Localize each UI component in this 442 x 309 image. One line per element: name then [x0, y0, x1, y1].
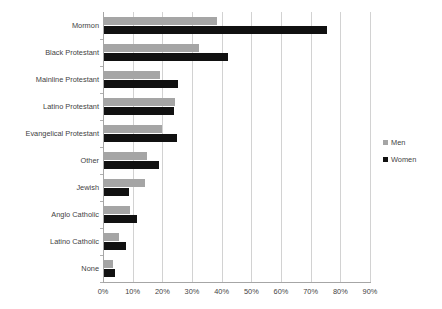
x-tick-label: 80% [325, 287, 355, 296]
y-category-label: Anglo Catholic [51, 210, 99, 219]
y-category-label: Latino Protestant [43, 102, 99, 111]
y-category-label: Mormon [72, 21, 99, 30]
legend-entry[interactable]: Men [383, 136, 416, 149]
y-category-label: Mainline Protestant [36, 75, 99, 84]
legend-label: Men [391, 138, 405, 147]
x-tick-label: 30% [177, 287, 207, 296]
y-category-label: Other [81, 156, 99, 165]
x-tick-label: 60% [266, 287, 296, 296]
y-category-label: Evangelical Protestant [25, 129, 99, 138]
women-swatch-icon [383, 157, 388, 162]
x-tick-label: 20% [147, 287, 177, 296]
y-category-label: Jewish [76, 183, 99, 192]
y-category-label: None [81, 264, 99, 273]
x-tick-label: 0% [88, 287, 118, 296]
x-tick-label: 50% [236, 287, 266, 296]
x-tick-label: 10% [118, 287, 148, 296]
chart-legend: MenWomen [383, 136, 416, 170]
bar-chart: MormonBlack ProtestantMainline Protestan… [0, 0, 442, 309]
x-axis-line [103, 282, 371, 283]
men-swatch-icon [383, 140, 388, 145]
legend-label: Women [391, 155, 416, 164]
legend-entry[interactable]: Women [383, 153, 416, 166]
y-category-label: Black Protestant [45, 48, 99, 57]
x-tick-label: 40% [207, 287, 237, 296]
y-category-label: Latino Catholic [50, 237, 99, 246]
x-tick-label: 70% [296, 287, 326, 296]
y-axis-labels: MormonBlack ProtestantMainline Protestan… [0, 12, 442, 282]
x-tick-label: 90% [355, 287, 385, 296]
